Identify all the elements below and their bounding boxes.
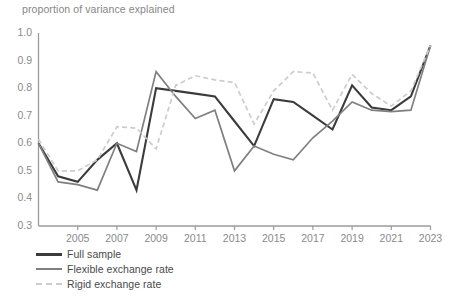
- y-tick-label: 0.4: [4, 191, 32, 203]
- x-tick-label: 2013: [221, 232, 249, 244]
- axes: [39, 33, 431, 230]
- legend-line-swatch: [36, 283, 62, 285]
- legend-item-label: Rigid exchange rate: [67, 278, 161, 290]
- x-tick-label: 2015: [260, 232, 288, 244]
- legend-line-swatch: [36, 268, 62, 270]
- y-tick-label: 0.3: [4, 219, 32, 231]
- legend-item[interactable]: Flexible exchange rate: [36, 261, 336, 276]
- x-tick-label: 2005: [64, 232, 92, 244]
- legend-item-label: Full sample: [67, 248, 121, 260]
- series-lines: [39, 45, 431, 190]
- x-tick-label: 2017: [299, 232, 327, 244]
- x-tick-label: 2023: [417, 232, 445, 244]
- chart-legend: Full sampleFlexible exchange rateRigid e…: [36, 246, 336, 291]
- y-tick-label: 0.9: [4, 54, 32, 66]
- x-tick-label: 2011: [181, 232, 209, 244]
- x-tick-label: 2019: [338, 232, 366, 244]
- legend-item[interactable]: Rigid exchange rate: [36, 276, 336, 291]
- x-tick-label: 2021: [377, 232, 405, 244]
- chart-figure: proportion of variance explained 0.30.40…: [0, 0, 450, 299]
- series-line-1: [39, 45, 431, 190]
- legend-item[interactable]: Full sample: [36, 246, 336, 261]
- y-tick-label: 0.5: [4, 164, 32, 176]
- y-tick-label: 1.0: [4, 26, 32, 38]
- y-tick-label: 0.6: [4, 136, 32, 148]
- x-tick-label: 2007: [103, 232, 131, 244]
- x-tick-label: 2009: [142, 232, 170, 244]
- y-tick-label: 0.7: [4, 109, 32, 121]
- legend-item-label: Flexible exchange rate: [67, 263, 174, 275]
- y-tick-label: 0.8: [4, 81, 32, 93]
- legend-line-swatch: [36, 253, 62, 256]
